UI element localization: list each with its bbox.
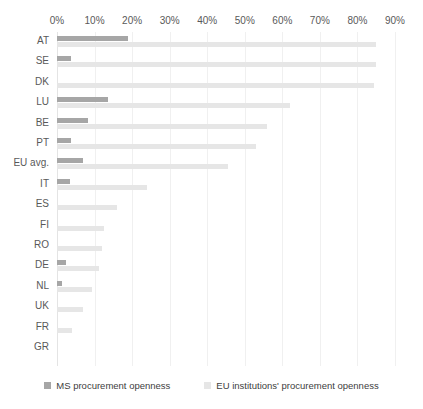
x-tick-label-10: 10%: [85, 14, 105, 28]
bar-eu-fi: [57, 226, 104, 231]
procurement-openness-bar-chart: 0%10%20%30%40%50%60%70%80%90% ATSEDKLUBE…: [0, 0, 423, 409]
bar-eu-at: [57, 42, 376, 47]
plot-area: [57, 32, 395, 366]
bar-ms-se: [57, 56, 71, 61]
y-tick-label-eu-avg-: EU avg.: [13, 157, 49, 169]
bar-row-nl: [57, 281, 395, 293]
y-tick-label-at: AT: [37, 35, 49, 47]
y-tick-label-dk: DK: [35, 76, 49, 88]
bar-row-fi: [57, 220, 395, 232]
x-tick-label-20: 20%: [122, 14, 142, 28]
bar-ms-de: [57, 260, 66, 265]
y-tick-label-ro: RO: [34, 239, 49, 251]
bar-eu-eu-avg-: [57, 164, 228, 169]
y-tick-label-uk: UK: [35, 300, 49, 312]
bar-row-at: [57, 36, 395, 48]
bar-row-fr: [57, 322, 395, 334]
bar-eu-ro: [57, 246, 102, 251]
y-tick-label-it: IT: [40, 178, 49, 190]
bar-row-uk: [57, 301, 395, 313]
bar-eu-it: [57, 185, 147, 190]
y-tick-label-de: DE: [35, 259, 49, 271]
legend-swatch-ms-icon: [44, 382, 51, 389]
bar-row-ro: [57, 240, 395, 252]
legend-label-ms: MS procurement openness: [56, 380, 170, 391]
y-tick-label-pt: PT: [36, 137, 49, 149]
x-axis-tick-labels: 0%10%20%30%40%50%60%70%80%90%: [0, 14, 423, 30]
x-tick-label-60: 60%: [272, 14, 292, 28]
bar-ms-lu: [57, 97, 108, 102]
legend-swatch-eu-icon: [204, 382, 211, 389]
x-tick-label-50: 50%: [235, 14, 255, 28]
bar-eu-es: [57, 205, 117, 210]
y-tick-label-se: SE: [36, 55, 49, 67]
bar-eu-dk: [57, 83, 374, 88]
bar-eu-be: [57, 124, 267, 129]
bar-row-be: [57, 118, 395, 130]
x-tick-label-0: 0%: [50, 14, 64, 28]
x-tick-label-30: 30%: [160, 14, 180, 28]
y-tick-label-es: ES: [36, 198, 49, 210]
bar-ms-eu-avg-: [57, 158, 83, 163]
bar-row-eu-avg-: [57, 158, 395, 170]
bar-eu-uk: [57, 307, 83, 312]
y-tick-label-lu: LU: [36, 96, 49, 108]
bar-row-se: [57, 56, 395, 68]
legend-item-eu[interactable]: EU institutions' procurement openness: [204, 380, 378, 391]
bar-row-de: [57, 260, 395, 272]
legend-item-ms[interactable]: MS procurement openness: [44, 380, 170, 391]
x-tick-label-70: 70%: [310, 14, 330, 28]
bar-eu-se: [57, 62, 376, 67]
bar-ms-pt: [57, 138, 71, 143]
bar-eu-nl: [57, 287, 92, 292]
bar-eu-de: [57, 266, 99, 271]
bar-row-dk: [57, 77, 395, 89]
bar-row-gr: [57, 342, 395, 354]
bar-eu-fr: [57, 328, 72, 333]
bar-row-it: [57, 179, 395, 191]
bar-ms-nl: [57, 281, 62, 286]
x-tick-label-80: 80%: [347, 14, 367, 28]
y-tick-label-fi: FI: [40, 219, 49, 231]
x-tick-label-40: 40%: [197, 14, 217, 28]
bar-ms-it: [57, 179, 70, 184]
y-tick-label-nl: NL: [36, 280, 49, 292]
y-tick-label-fr: FR: [36, 321, 49, 333]
bar-ms-at: [57, 36, 128, 41]
bar-eu-lu: [57, 103, 290, 108]
bar-eu-pt: [57, 144, 256, 149]
x-tick-label-90: 90%: [385, 14, 405, 28]
bar-ms-be: [57, 118, 88, 123]
y-axis-category-labels: ATSEDKLUBEPTEU avg.ITESFIRODENLUKFRGR: [0, 32, 53, 366]
bar-row-es: [57, 199, 395, 211]
gridline-90: [395, 32, 396, 366]
bar-row-pt: [57, 138, 395, 150]
bar-row-lu: [57, 97, 395, 109]
y-tick-label-gr: GR: [34, 341, 49, 353]
legend-label-eu: EU institutions' procurement openness: [216, 380, 378, 391]
y-tick-label-be: BE: [36, 117, 49, 129]
chart-legend: MS procurement opennessEU institutions' …: [0, 377, 423, 393]
